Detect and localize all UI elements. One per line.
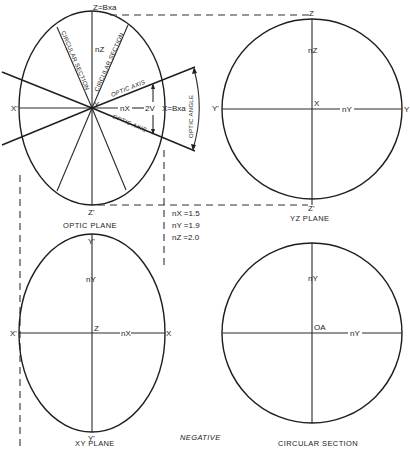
optic-plane-2v-label: 2V	[145, 104, 155, 113]
yz-right-label: Y	[404, 105, 410, 114]
xy-center-label: Z	[94, 324, 99, 333]
circular-section-caption: CIRCULAR SECTION	[278, 439, 358, 448]
circular-section-panel: nY OA nY CIRCULAR SECTION	[222, 243, 402, 448]
circular-section-ny-vertical-label: nY	[308, 274, 318, 283]
xy-left-label: X'	[10, 329, 17, 338]
circular-section-center-label: OA	[314, 323, 326, 332]
yz-left-label: Y'	[212, 104, 219, 113]
xy-right-label: X	[166, 329, 172, 338]
yz-bottom-label: Z'	[308, 204, 315, 213]
xy-top-label: Y'	[88, 237, 95, 246]
yz-ny-label: nY	[342, 105, 352, 114]
xy-nx-label: nX	[121, 329, 131, 338]
index-nx: nX=1.5	[172, 209, 200, 218]
refractive-index-list: nX=1.5 nY=1.9 nZ=2.0	[172, 209, 200, 242]
optical-indicatrix-diagram: Z=Bxa nZ X' Y nX 2V X=Bxa Z' CIRCULAR SE…	[0, 0, 410, 453]
yz-plane-panel: Z nZ Y' X nY Y Z' YZ PLANE	[212, 9, 410, 223]
yz-center-label: X	[314, 99, 320, 108]
circular-section-label-left: CIRCULAR SECTION	[60, 30, 90, 91]
optic-angle-label: OPTIC ANGLE	[188, 95, 194, 138]
optic-plane-panel: Z=Bxa nZ X' Y nX 2V X=Bxa Z' CIRCULAR SE…	[2, 3, 199, 230]
optic-plane-caption: OPTIC PLANE	[63, 221, 117, 230]
yz-nz-label: nZ	[308, 46, 317, 55]
optic-plane-left-label: X'	[11, 104, 18, 113]
circular-section-label-right: CIRCULAR SECTION	[93, 32, 124, 93]
circular-section-ny-horizontal-label: nY	[350, 329, 360, 338]
index-ny: nY=1.9	[172, 221, 200, 230]
optic-sign-label: NEGATIVE	[180, 433, 221, 442]
optic-plane-center-label: Y	[94, 100, 100, 109]
optic-plane-top-label: Z=Bxa	[93, 3, 117, 12]
optic-plane-right-label: X=Bxa	[162, 104, 186, 113]
index-nz: nZ=2.0	[172, 233, 200, 242]
optic-axis-label-lower: OPTIC AXIS	[112, 113, 148, 133]
xy-plane-caption: XY PLANE	[75, 439, 115, 448]
optic-plane-bottom-label: Z'	[88, 208, 95, 217]
optic-plane-nz-label: nZ	[95, 45, 104, 54]
xy-plane-panel: Y' nY X' Z nX X Y' XY PLANE	[10, 234, 172, 448]
yz-plane-caption: YZ PLANE	[290, 214, 329, 223]
xy-ny-label: nY	[86, 275, 96, 284]
optic-plane-nx-label: nX	[120, 104, 130, 113]
yz-top-label: Z	[309, 9, 314, 18]
